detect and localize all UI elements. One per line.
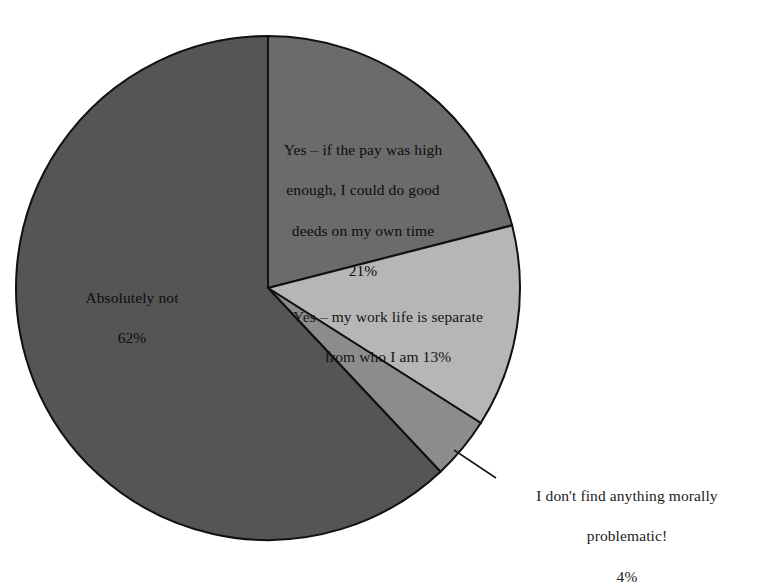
leader-line-no-moral-problem: [454, 450, 496, 478]
slice-value-label: 4%: [498, 567, 756, 586]
